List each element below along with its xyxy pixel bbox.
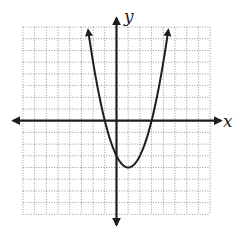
- x-axis-label: x: [223, 111, 233, 131]
- y-axis-label: y: [123, 6, 134, 26]
- coordinate-graph: x y: [0, 0, 242, 232]
